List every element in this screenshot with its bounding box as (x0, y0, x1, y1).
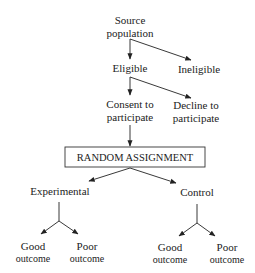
node-experimental: Experimental (30, 185, 89, 197)
node-control-good-outcome: Good outcome (153, 241, 188, 265)
edge-eligible-to-decline (130, 77, 191, 98)
node-eligible: Eligible (113, 62, 148, 74)
decline-label-line1: Decline to (173, 99, 219, 111)
ctrl-good-line2: outcome (153, 254, 188, 265)
exp-poor-line1: Poor (77, 240, 98, 252)
node-experimental-poor-outcome: Poor outcome (70, 240, 105, 264)
exp-good-line1: Good (21, 240, 46, 252)
edge-source-to-ineligible (130, 39, 191, 60)
node-source-population: Source population (106, 14, 154, 39)
consent-label-line1: Consent to (106, 98, 154, 110)
node-consent-to-participate: Consent to participate (106, 98, 154, 123)
random-assignment-flowchart: Source population Eligible Ineligible Co… (0, 0, 255, 273)
exp-poor-line2: outcome (70, 253, 105, 264)
ctrl-poor-line2: outcome (210, 254, 245, 265)
node-control-poor-outcome: Poor outcome (210, 241, 245, 265)
edge-experimental-to-good (41, 221, 59, 234)
node-decline-to-participate: Decline to participate (173, 99, 220, 124)
random-assignment-label: RANDOM ASSIGNMENT (77, 152, 194, 163)
exp-good-line2: outcome (16, 253, 51, 264)
edge-control-to-poor (197, 223, 215, 236)
decline-label-line2: participate (173, 112, 220, 124)
edge-random-to-control (130, 168, 176, 183)
edge-control-to-good (179, 223, 197, 236)
ctrl-poor-line1: Poor (217, 241, 238, 253)
node-ineligible: Ineligible (178, 63, 220, 75)
edge-experimental-to-poor (59, 221, 78, 234)
edge-random-to-experimental (89, 168, 130, 181)
ctrl-good-line1: Good (158, 241, 183, 253)
node-control: Control (180, 186, 214, 198)
node-experimental-good-outcome: Good outcome (16, 240, 51, 264)
node-random-assignment: RANDOM ASSIGNMENT (65, 147, 205, 167)
source-label-line1: Source (115, 14, 146, 26)
consent-label-line2: participate (107, 111, 154, 123)
source-label-line2: population (106, 27, 154, 39)
